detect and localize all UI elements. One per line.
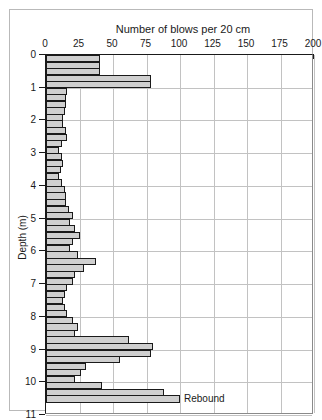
x-axis-tick-label: 150 bbox=[238, 38, 255, 49]
gridline-vertical bbox=[147, 55, 148, 413]
gridline-vertical bbox=[180, 55, 181, 413]
chart-title: Number of blows per 20 cm bbox=[48, 23, 318, 35]
gridline-vertical bbox=[314, 55, 315, 413]
gridline-horizontal bbox=[46, 219, 312, 220]
gridline-horizontal bbox=[46, 186, 312, 187]
x-axis-tick-label: 175 bbox=[271, 38, 288, 49]
y-axis-tick-label: 8 bbox=[10, 310, 36, 321]
bar bbox=[46, 395, 180, 402]
x-axis-tick-label: 50 bbox=[106, 38, 117, 49]
y-axis-tick-label: 10 bbox=[10, 376, 36, 387]
x-axis-tick-label: 125 bbox=[204, 38, 221, 49]
x-axis-tick-label: 100 bbox=[171, 38, 188, 49]
gridline-vertical bbox=[281, 55, 282, 413]
x-axis-tick-label: 0 bbox=[42, 38, 48, 49]
y-axis-tick-label: 9 bbox=[10, 343, 36, 354]
gridline-horizontal bbox=[46, 120, 312, 121]
gridline-horizontal bbox=[46, 284, 312, 285]
gridline-horizontal bbox=[46, 317, 312, 318]
y-axis-tick bbox=[39, 414, 45, 415]
x-axis-tick-label: 75 bbox=[140, 38, 151, 49]
y-axis-tick-label: 2 bbox=[10, 114, 36, 125]
gridline-horizontal bbox=[46, 251, 312, 252]
gridline-horizontal bbox=[46, 415, 312, 416]
gridline-vertical bbox=[214, 55, 215, 413]
gridline-horizontal bbox=[46, 153, 312, 154]
y-axis-tick-label: 3 bbox=[10, 147, 36, 158]
rebound-annotation: Rebound bbox=[184, 393, 225, 404]
y-axis-tick-label: 0 bbox=[10, 49, 36, 60]
y-axis-tick-label: 1 bbox=[10, 81, 36, 92]
x-axis-tick-label: 200 bbox=[305, 38, 322, 49]
y-axis-title: Depth (m) bbox=[17, 178, 28, 298]
x-axis-tick-label: 25 bbox=[73, 38, 84, 49]
chart-frame: Number of blows per 20 cm 02550751001251… bbox=[9, 9, 313, 411]
gridline-vertical bbox=[247, 55, 248, 413]
plot-area: Rebound bbox=[45, 54, 313, 414]
y-axis-tick-label: 11 bbox=[10, 409, 36, 420]
